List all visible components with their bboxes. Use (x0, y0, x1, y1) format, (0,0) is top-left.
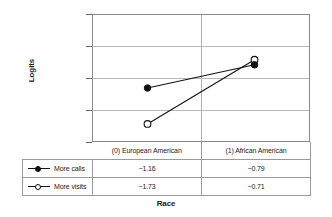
open-circle-marker-icon (28, 182, 50, 191)
filled-circle-marker-icon (28, 164, 50, 173)
series-line-more-calls (147, 65, 254, 88)
x-tick-label-european-american: (0) European American (93, 142, 202, 160)
table-header-row: (0) European American (1) African Americ… (23, 142, 311, 160)
data-point-more-visits-european-american (144, 121, 151, 128)
data-table: (0) European American (1) African Americ… (22, 142, 311, 196)
legend-label-more-calls: More calls (54, 165, 85, 172)
data-point-more-calls-european-american (144, 85, 151, 91)
table-cell-more-calls-european-american: −1.16 (93, 160, 202, 178)
legend-item-more-calls: More calls (23, 160, 93, 178)
table-cell-more-visits-african-american: −0.71 (202, 178, 311, 196)
series-plot (93, 15, 309, 141)
chart-figure: 0.00 −0.50 −1.00 −1.50 −2.00 Logits (0, 0, 332, 217)
legend-item-more-visits: More visits (23, 178, 93, 196)
table-cell-more-calls-african-american: −0.79 (202, 160, 311, 178)
y-axis-title: Logits (27, 31, 36, 111)
series-line-more-visits (147, 60, 254, 124)
legend-label-more-visits: More visits (54, 183, 86, 190)
table-corner-cell (23, 142, 93, 160)
x-tick-label-african-american: (1) African American (202, 142, 311, 160)
plot-area (92, 14, 310, 142)
data-point-more-calls-african-american (251, 62, 258, 68)
table-row: More calls −1.16 −0.79 (23, 160, 311, 178)
x-axis-title: Race (22, 199, 310, 208)
table-cell-more-visits-european-american: −1.73 (93, 178, 202, 196)
table-row: More visits −1.73 −0.71 (23, 178, 311, 196)
